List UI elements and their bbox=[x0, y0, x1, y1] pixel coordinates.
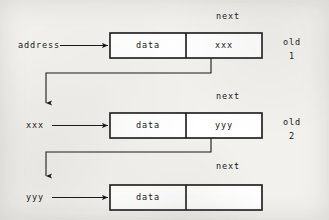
next-label-1: next bbox=[216, 12, 240, 21]
next-cell-2: yyy bbox=[215, 121, 233, 130]
node-box-3 bbox=[110, 185, 262, 210]
data-cell-1: data bbox=[136, 41, 160, 50]
node-box-2 bbox=[110, 113, 262, 138]
pointer-label-xxx: xxx bbox=[26, 121, 44, 130]
node-tag-2-line2: 2 bbox=[289, 132, 295, 141]
next-connector-1 bbox=[46, 58, 211, 103]
node-tag-1-line2: 1 bbox=[289, 52, 295, 61]
node-tag-1-line1: old bbox=[283, 38, 301, 47]
node-box-1 bbox=[110, 33, 262, 58]
data-cell-3: data bbox=[136, 193, 160, 202]
linked-list-diagram: next address data xxx old 1 next xxx dat… bbox=[0, 0, 329, 220]
node-tag-2-line1: old bbox=[283, 118, 301, 127]
next-label-3: next bbox=[216, 162, 240, 171]
data-cell-2: data bbox=[136, 121, 160, 130]
pointer-label-yyy: yyy bbox=[26, 193, 44, 202]
next-label-2: next bbox=[216, 92, 240, 101]
next-connector-2 bbox=[46, 138, 211, 176]
diagram-canvas bbox=[0, 0, 329, 220]
pointer-label-address: address bbox=[18, 41, 60, 50]
next-cell-1: xxx bbox=[215, 41, 233, 50]
